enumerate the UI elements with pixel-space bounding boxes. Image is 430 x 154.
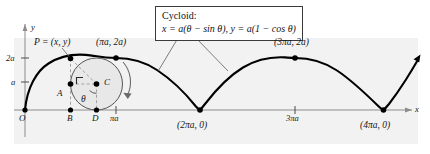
x-axis-label: x — [415, 105, 419, 114]
point-label-P: P = (x, y) — [34, 38, 70, 48]
cusp1-dot — [197, 107, 203, 113]
y-axis-arrowhead — [23, 24, 28, 31]
cycloid-figure: Cycloid: x = a(θ − sin θ), y = a(1 − cos… — [0, 0, 430, 154]
cusp2-label: (4πa, 0) — [360, 121, 390, 131]
point-label-B: B — [67, 114, 73, 123]
y-tick-label-a: a — [11, 78, 15, 87]
cycloid-equation-callout: Cycloid: x = a(θ − sin θ), y = a(1 − cos… — [155, 6, 303, 41]
origin-label: O — [19, 114, 26, 123]
point-label-C: C — [104, 78, 110, 87]
point-B-dot — [68, 107, 73, 112]
point-label-A: A — [57, 89, 63, 98]
y-axis-label: y — [31, 23, 35, 32]
arch1-peak-label: (πa, 2a) — [96, 38, 126, 48]
point-O-dot — [22, 107, 27, 112]
arch1-peak-dot — [113, 55, 119, 61]
x-tick-label-3pi-a: 3πa — [286, 114, 299, 123]
x-tick-label-pi-a: πa — [110, 114, 119, 123]
arch2-peak-label: (3πa, 2a) — [274, 38, 309, 48]
y-tick-label-2a: 2a — [6, 54, 15, 63]
point-label-D: D — [92, 114, 99, 123]
arch2-peak-dot — [292, 55, 298, 61]
point-A-dot — [68, 81, 74, 87]
callout-title: Cycloid: — [162, 10, 296, 23]
callout-equation: x = a(θ − sin θ), y = a(1 − cos θ) — [162, 23, 296, 36]
cusp2-dot — [381, 107, 387, 113]
cusp1-label: (2πa, 0) — [177, 121, 207, 131]
point-C-dot — [94, 81, 100, 87]
point-D-dot — [94, 107, 99, 112]
angle-label-theta: θ — [81, 95, 86, 105]
